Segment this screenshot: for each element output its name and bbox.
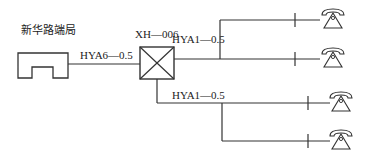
telephone-icon-4 [330, 130, 352, 149]
exchange-office-symbol [18, 53, 68, 78]
trunk-cable-label: HYA6—0.5 [80, 49, 133, 61]
upper-branch-label: HYA1—0.5 [172, 33, 225, 45]
station-label: 新华路端局 [21, 23, 76, 37]
telephone-icon-2 [322, 48, 344, 67]
junction-box-icon [140, 47, 174, 79]
telephone-cable-diagram: 新华路端局 HYA6—0.5 XH—006 HYA1—0.5 HYA1—0.5 [0, 0, 370, 161]
telephone-icon-3 [330, 92, 352, 111]
lower-branch-label: HYA1—0.5 [172, 89, 225, 101]
telephone-icon-1 [322, 9, 344, 28]
